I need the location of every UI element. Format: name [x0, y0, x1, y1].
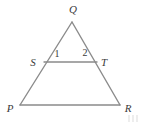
segment-QR	[72, 22, 120, 105]
vertex-label-T: T	[101, 57, 107, 68]
segment-QP	[20, 22, 72, 105]
vertex-label-S: S	[30, 57, 36, 68]
triangle-figure	[0, 0, 141, 125]
corner-watermark	[128, 115, 138, 122]
geometry-diagram: Q P R S T 1 2	[0, 0, 141, 125]
angle-label-1: 1	[55, 49, 60, 59]
vertex-label-R: R	[125, 103, 132, 114]
vertex-label-Q: Q	[69, 4, 77, 15]
angle-label-2: 2	[83, 48, 88, 58]
vertex-label-P: P	[7, 103, 14, 114]
